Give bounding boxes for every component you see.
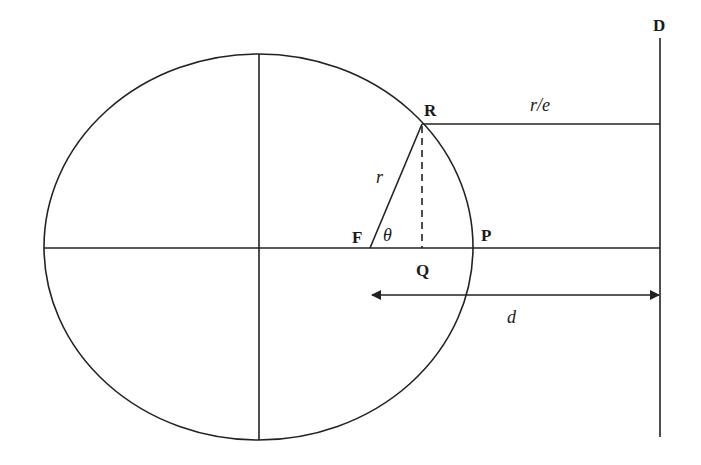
label-F: F [352, 228, 362, 247]
label-P: P [481, 226, 491, 245]
label-R: R [424, 101, 437, 120]
label-theta: θ [383, 225, 392, 245]
label-d: d [507, 307, 517, 327]
ellipse-diagram: D R r/e r F θ P Q d [0, 0, 701, 465]
label-r: r [376, 167, 384, 187]
label-Q: Q [416, 261, 429, 280]
label-D: D [653, 16, 665, 35]
label-r-over-e: r/e [530, 95, 550, 115]
